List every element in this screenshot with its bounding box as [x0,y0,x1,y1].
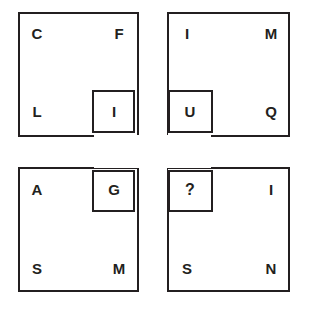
letter-br-bottom-left: S [178,261,196,276]
letter-tl-top-right: F [110,26,128,41]
letter-tr-top-right: M [262,26,280,41]
stub-tr-left-upper [167,14,169,92]
letter-bl-bottom-right: M [110,261,128,276]
stub-br-top-right [211,167,290,169]
stub-tl-right-upper [137,14,139,92]
letter-tl-bottom-left: L [28,104,46,119]
stub-tl-bottom-left [18,135,94,137]
letter-tr-top-left: I [178,26,196,41]
letter-center-top-right: U [181,104,199,119]
letter-br-top-right: I [262,182,280,197]
letter-bl-bottom-left: S [28,261,46,276]
letter-center-top-left: I [105,104,123,119]
missing-letter-placeholder: ? [181,182,199,198]
letter-center-bottom-left: G [105,182,123,197]
stub-br-left-lower [167,212,169,292]
letter-br-bottom-right: N [262,261,280,276]
letter-bl-top-left: A [28,182,46,197]
puzzle-canvas: C F L I M Q A S M I S N I U G ? [0,0,313,311]
stub-bl-top-left [18,167,94,169]
stub-bl-right-lower [137,212,139,292]
letter-tl-top-left: C [28,26,46,41]
mask-center-gap [94,135,211,168]
stub-tr-bottom-right [211,135,290,137]
letter-tr-bottom-right: Q [262,104,280,119]
